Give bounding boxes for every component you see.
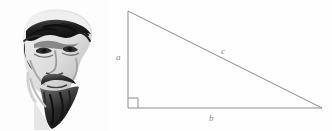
triangle-hypotenuse-c [128,11,322,108]
right-triangle-diagram [110,0,332,131]
label-side-a: a [116,53,121,62]
pythagorean-theorem-figure: a b c [0,0,332,131]
bust-artwork [0,0,110,131]
triangle-artwork [110,0,332,131]
philosopher-bust-illustration [0,0,110,131]
left-pupil [41,49,46,53]
label-side-b: b [209,114,214,123]
right-pupil [68,47,73,51]
label-side-c: c [221,47,225,56]
right-angle-square [128,98,138,108]
